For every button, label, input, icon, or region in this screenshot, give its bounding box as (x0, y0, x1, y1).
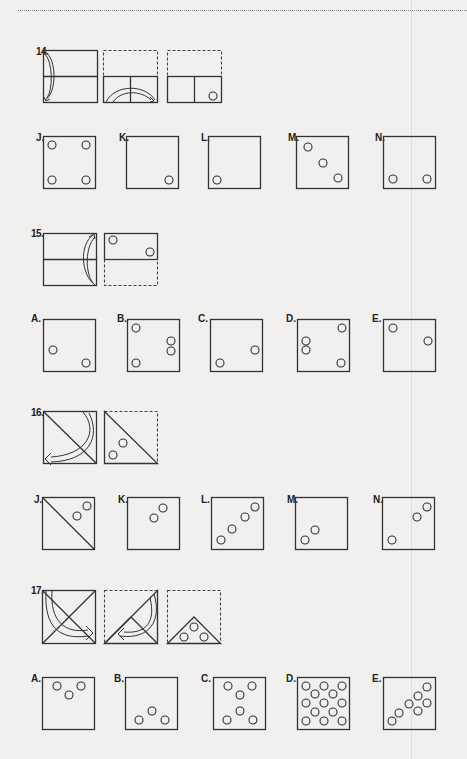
q15-step2-figure (104, 233, 160, 286)
option-D-label-17: D. (286, 673, 296, 684)
option-M-figure-16[interactable] (295, 497, 350, 551)
dotted-separator (18, 10, 467, 11)
option-B-figure-17[interactable] (125, 677, 180, 731)
option-J-figure-16[interactable] (42, 497, 97, 551)
option-L-figure-16[interactable] (211, 497, 266, 551)
option-A-figure[interactable] (43, 319, 97, 373)
option-C-label-17: C. (201, 673, 211, 684)
option-C-figure-17[interactable] (213, 677, 268, 731)
q17-step3-figure (167, 590, 223, 645)
option-D-figure-17[interactable] (297, 677, 352, 731)
option-L-figure[interactable] (208, 136, 262, 190)
option-E-label: E. (372, 313, 381, 324)
option-N-figure-16[interactable] (382, 497, 437, 551)
option-E-figure-17[interactable] (383, 677, 438, 731)
option-B-label: B. (117, 313, 127, 324)
option-C-label: C. (198, 313, 208, 324)
option-C-figure[interactable] (210, 319, 264, 373)
q14-step3-figure (167, 50, 223, 103)
option-E-figure[interactable] (383, 319, 437, 373)
page-fold-line (411, 0, 412, 759)
option-L-label-16: L. (201, 494, 210, 505)
question-15-number: 15. (31, 228, 43, 239)
question-16-number: 16. (31, 407, 43, 418)
option-J-figure[interactable] (43, 136, 97, 190)
option-A-label: A. (31, 313, 41, 324)
option-K-figure[interactable] (126, 136, 180, 190)
option-A-label-17: A. (31, 673, 41, 684)
option-B-figure[interactable] (127, 319, 181, 373)
q14-step2-figure (103, 50, 159, 103)
q16-step1-figure (43, 411, 98, 465)
q15-step1-figure (43, 233, 99, 286)
option-M-figure[interactable] (296, 136, 350, 190)
q17-step2-figure (104, 590, 160, 645)
option-N-figure[interactable] (383, 136, 437, 190)
q14-step1-figure (43, 50, 99, 103)
option-A-figure-17[interactable] (42, 677, 97, 731)
q17-step1-figure (42, 590, 98, 645)
option-E-label-17: E. (372, 673, 381, 684)
option-B-label-17: B. (114, 673, 124, 684)
q16-step2-figure (104, 411, 159, 465)
option-D-figure[interactable] (297, 319, 351, 373)
option-D-label: D. (286, 313, 296, 324)
option-K-figure-16[interactable] (127, 497, 182, 551)
